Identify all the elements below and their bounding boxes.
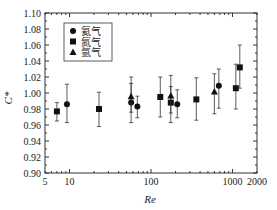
- chart: 0.900.920.940.960.981.001.021.041.061.08…: [0, 0, 277, 210]
- legend-label: 氦气: [81, 25, 101, 37]
- y-tick-label: 0.94: [24, 136, 42, 147]
- y-tick-label: 0.90: [24, 168, 42, 179]
- y-tick-label: 1.06: [24, 40, 42, 51]
- square-marker: [193, 96, 199, 102]
- square-marker: [96, 106, 102, 112]
- square-marker: [70, 39, 76, 45]
- square-marker: [54, 108, 60, 114]
- circle-marker: [64, 101, 70, 107]
- y-tick-label: 1.00: [24, 88, 42, 99]
- x-tick-label: 2000: [247, 176, 267, 187]
- series-triangle: [128, 74, 218, 114]
- series-circle: [64, 69, 222, 123]
- y-tick-label: 1.10: [24, 8, 42, 19]
- circle-marker: [174, 101, 180, 107]
- circle-marker: [134, 104, 140, 110]
- circle-marker: [216, 83, 222, 89]
- triangle-marker: [128, 93, 135, 100]
- x-tick-label: 1000: [222, 176, 242, 187]
- y-tick-label: 1.08: [24, 24, 42, 35]
- legend-label: 氩气: [81, 46, 101, 58]
- x-tick-label: 5: [43, 176, 48, 187]
- axes: 0.900.920.940.960.981.001.021.041.061.08…: [24, 8, 268, 188]
- square-marker: [237, 64, 243, 70]
- legend: 氦气氮气氩气: [64, 23, 112, 61]
- y-tick-label: 0.98: [24, 104, 42, 115]
- circle-marker: [70, 28, 76, 34]
- x-tick-label: 100: [144, 176, 159, 187]
- y-axis-label: C*: [2, 91, 14, 104]
- triangle-marker: [211, 88, 218, 95]
- legend-label: 氮气: [81, 36, 101, 48]
- y-tick-label: 0.92: [24, 152, 42, 163]
- y-tick-label: 1.04: [24, 56, 42, 67]
- x-tick-label: 10: [65, 176, 75, 187]
- square-marker: [157, 94, 163, 100]
- triangle-marker: [167, 92, 174, 99]
- y-tick-label: 1.02: [24, 72, 42, 83]
- y-tick-label: 0.96: [24, 120, 42, 131]
- x-axis-label: Re: [143, 193, 156, 205]
